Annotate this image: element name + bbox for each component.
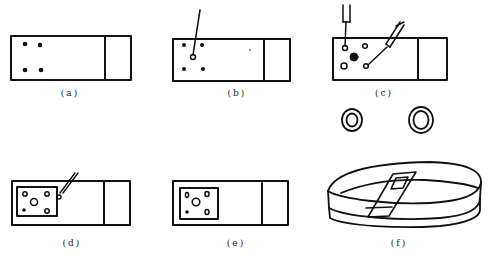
needle-icon xyxy=(193,10,200,55)
panel-label-a: (a) xyxy=(61,88,79,98)
needle-icon xyxy=(57,173,78,199)
panel-a-slide xyxy=(11,36,131,80)
pipette-icon xyxy=(368,22,404,65)
panel-label-e: (e) xyxy=(227,238,245,248)
panel-f-petri-dish xyxy=(328,162,481,227)
panel-label-d: (d) xyxy=(63,238,82,248)
panel-c-slide xyxy=(333,5,447,80)
sample-dots xyxy=(23,42,44,73)
panel-b-slide xyxy=(173,10,290,81)
diagram-canvas xyxy=(0,0,491,258)
panel-e-slide xyxy=(173,181,288,225)
slide-in-dish xyxy=(366,172,416,217)
panel-label-b: (b) xyxy=(228,88,247,98)
coverslip-rings xyxy=(342,107,433,133)
forceps-icon xyxy=(343,5,350,46)
panel-d-slide xyxy=(12,173,130,225)
panel-label-c: (c) xyxy=(375,88,393,98)
panel-label-f: (f) xyxy=(391,238,407,248)
